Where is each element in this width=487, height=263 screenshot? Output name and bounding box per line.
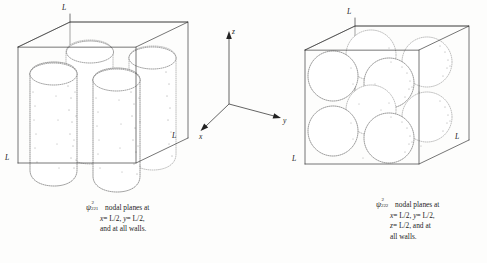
caption-line-1-221: nodal planes at (105, 203, 149, 214)
panel-psi-222: L L L (285, 0, 487, 200)
caption-line-1-222: nodal planes at (395, 200, 439, 211)
lobe-sphere-lower-front-left (308, 106, 358, 156)
caption-line-4-222: all walls. (376, 232, 439, 243)
axis-x: x (198, 104, 229, 141)
lobe-pillar-front-right (93, 68, 140, 192)
edge-label-L-top-222: L (347, 8, 351, 16)
lobe-sphere-upper-front-left (308, 51, 358, 101)
axis-triad: z y x (196, 22, 296, 140)
psi-symbol-221: ψ2221 (86, 203, 102, 212)
axis-label-z: z (231, 27, 235, 36)
axis-label-x: x (198, 132, 203, 141)
axis-z: z (226, 27, 235, 104)
caption-val-x-222: = L/2, (393, 211, 411, 220)
psi-superscript-222: 2 (381, 197, 384, 203)
caption-psi-222: ψ2222nodal planes at x= L/2, y= L/2, z= … (376, 200, 439, 243)
caption-line-2-221: x= L/2, y= L/2, (86, 214, 149, 225)
caption-line-3-221: and at all walls. (86, 224, 149, 235)
figure-root: L L L z y x (0, 0, 487, 263)
psi-superscript-221: 2 (91, 200, 94, 206)
caption-val-x-221: = L/2, (103, 214, 121, 223)
caption-line-3-222: z= L/2, and at (376, 221, 439, 232)
caption-val-y-221: = L/2, (127, 214, 145, 223)
edge-label-L-right-221: L (172, 132, 176, 140)
edge-label-L-left-222: L (292, 155, 296, 163)
lobe-pillar-front-left (30, 62, 77, 186)
caption-val-z-222: = L/2, and at (393, 221, 431, 230)
caption-val-y-222: = L/2, (417, 211, 435, 220)
box-illustration-222 (285, 0, 487, 200)
psi-subscript-222: 222 (381, 203, 388, 209)
caption-line-2-222: x= L/2, y= L/2, (376, 211, 439, 222)
psi-symbol-222: ψ2222 (376, 200, 392, 209)
axis-y: y (229, 104, 287, 125)
edge-label-L-right-222: L (455, 133, 459, 141)
psi-subscript-221: 221 (91, 206, 98, 212)
edge-label-L-top-221: L (62, 4, 66, 12)
caption-psi-221: ψ2221nodal planes at x= L/2, y= L/2, and… (86, 203, 149, 235)
lobe-sphere-lower-front-right (364, 113, 414, 163)
edge-label-L-left-221: L (5, 154, 9, 162)
